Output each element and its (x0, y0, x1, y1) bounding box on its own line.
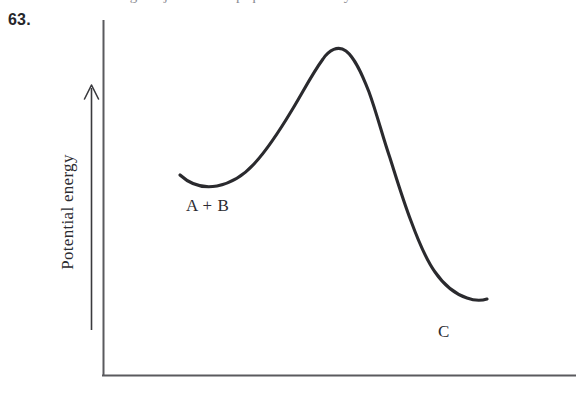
energy-curve (180, 48, 487, 300)
plot-canvas (0, 0, 576, 393)
up-arrow-icon (85, 85, 99, 330)
potential-energy-diagram-figure: a b c d e f g h i j k l m n o p q r s t … (0, 0, 576, 393)
